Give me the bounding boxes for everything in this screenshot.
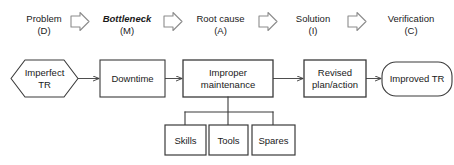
phase-name-bottleneck: Bottleneck [95,13,159,25]
phase-arrow-1 [71,13,89,31]
sub-node-label-spares: Spares [252,135,295,146]
node-shape-revised-plan-action [304,60,366,97]
phase-code-verification: (C) [376,25,446,37]
phase-label-root-cause: Root cause (A) [189,13,252,36]
phase-arrow-4 [348,13,366,31]
phase-label-solution: Solution (I) [285,13,341,36]
phase-name-problem: Problem [18,13,70,25]
node-shape-improved-tr [382,62,452,96]
phase-code-solution: (I) [285,25,341,37]
phase-label-problem: Problem (D) [18,13,70,36]
phase-code-bottleneck: (M) [95,25,159,37]
sub-node-label-skills: Skills [165,135,206,146]
phase-name-root-cause: Root cause [189,13,252,25]
node-shape-downtime [100,60,165,97]
node-shape-improper-maintenance [183,60,273,97]
phase-name-solution: Solution [285,13,341,25]
phase-label-verification: Verification (C) [376,13,446,36]
dmaic-flow-diagram: Problem (D) Bottleneck (M) Root cause (A… [0,0,454,165]
phase-arrow-3 [259,13,277,31]
phase-code-problem: (D) [18,25,70,37]
phase-name-verification: Verification [376,13,446,25]
sub-node-label-tools: Tools [209,135,248,146]
phase-arrow-2 [164,13,182,31]
node-shape-imperfect-tr [11,60,78,97]
phase-label-bottleneck: Bottleneck (M) [95,13,159,36]
tree-bracket-connector-icon [185,97,273,125]
phase-code-root-cause: (A) [189,25,252,37]
